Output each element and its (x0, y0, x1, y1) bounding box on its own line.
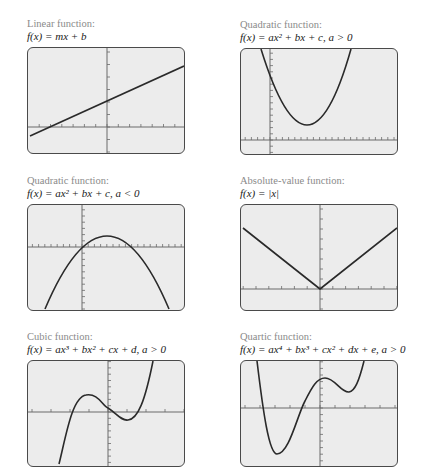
graph-screen (240, 48, 398, 155)
panel-title: Quartic function: (240, 331, 312, 342)
graph-screen (240, 360, 398, 467)
graph-screen (27, 360, 185, 467)
panel-cubic: Cubic function: f(x) = ax³ + bx² + cx + … (27, 331, 227, 475)
panel-title: Cubic function: (27, 331, 93, 342)
panel-title: Absolute-value function: (240, 175, 345, 186)
graph-screen (27, 204, 185, 311)
panel-absolute-value: Absolute-value function: f(x) = |x| (240, 175, 427, 325)
panel-title: Linear function: (27, 18, 95, 29)
panel-formula: f(x) = |x| (240, 187, 279, 199)
graph-screen (240, 204, 398, 311)
panel-formula: f(x) = ax⁴ + bx³ + cx² + dx + e, a > 0 (240, 343, 406, 355)
axis-ticks (32, 210, 181, 309)
panel-formula: f(x) = ax³ + bx² + cx + d, a > 0 (27, 343, 166, 355)
panel-formula: f(x) = ax² + bx + c, a < 0 (27, 187, 139, 199)
panel-quadratic-positive: Quadratic function: f(x) = ax² + bx + c,… (240, 19, 427, 169)
graph-screen (27, 47, 185, 154)
panel-formula: f(x) = ax² + bx + c, a > 0 (240, 31, 352, 43)
panel-title: Quadratic function: (240, 19, 322, 30)
panel-title: Quadratic function: (27, 175, 109, 186)
panel-formula: f(x) = mx + b (27, 30, 86, 42)
function-curve (261, 49, 351, 125)
panel-quartic: Quartic function: f(x) = ax⁴ + bx³ + cx²… (240, 331, 427, 475)
panel-quadratic-negative: Quadratic function: f(x) = ax² + bx + c,… (27, 175, 227, 325)
panel-linear: Linear function: f(x) = mx + b (27, 18, 227, 168)
